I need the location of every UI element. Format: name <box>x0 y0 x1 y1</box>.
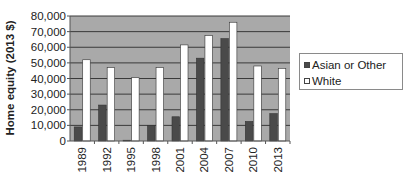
y-tick-label: 70,000 <box>31 26 66 38</box>
bar-asian <box>221 39 229 141</box>
bar-white <box>254 66 261 141</box>
bar-white <box>229 22 237 141</box>
legend-label: Asian or Other <box>312 59 386 71</box>
bar-asian <box>172 117 180 141</box>
x-tick-label: 2010 <box>247 147 259 173</box>
legend-label: White <box>312 75 341 87</box>
x-tick-label: 1995 <box>125 147 137 173</box>
white-swatch-icon <box>304 78 310 84</box>
y-tick-label: 0 <box>60 135 66 147</box>
y-axis-label: Home equity (2013 $) <box>4 20 16 135</box>
bar-asian <box>148 125 156 141</box>
y-tick-label: 50,000 <box>31 57 66 69</box>
y-tick-label: 30,000 <box>31 88 66 100</box>
y-tick-label: 10,000 <box>31 119 66 131</box>
bar-asian <box>245 121 253 141</box>
y-tick-label: 60,000 <box>31 41 66 53</box>
x-tick-label: 2001 <box>174 147 186 173</box>
legend: Asian or Other White <box>299 53 403 90</box>
bar-white <box>181 45 189 141</box>
bar-white <box>156 68 164 141</box>
bar-white <box>278 68 286 141</box>
y-tick-label: 80,000 <box>31 10 66 22</box>
x-tick-label: 2004 <box>198 146 210 172</box>
y-tick-label: 40,000 <box>31 73 66 85</box>
x-tick-label: 1998 <box>150 147 162 173</box>
bar-white <box>205 36 213 141</box>
bar-asian <box>270 114 278 141</box>
y-tick-label: 20,000 <box>31 104 66 116</box>
x-tick-label: 1989 <box>76 147 88 173</box>
x-tick-labels: 198919921995199820012004200720102013 <box>76 141 290 173</box>
bar-white <box>132 78 140 141</box>
bar-white <box>107 68 115 141</box>
asian-swatch-icon <box>304 62 310 68</box>
legend-item-white: White <box>304 74 341 88</box>
legend-item-asian: Asian or Other <box>304 58 386 72</box>
x-tick-label: 1992 <box>101 147 113 173</box>
bar-asian <box>196 58 204 141</box>
y-tick-labels: 010,00020,00030,00040,00050,00060,00070,… <box>31 10 70 147</box>
bar-asian <box>99 105 107 141</box>
bar-asian <box>74 127 82 141</box>
x-tick-label: 2007 <box>223 147 235 173</box>
x-tick-label: 2013 <box>272 147 284 173</box>
bar-white <box>83 60 91 141</box>
